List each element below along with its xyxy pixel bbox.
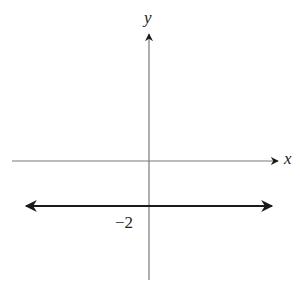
y-axis-label: y bbox=[144, 9, 152, 26]
graph-canvas: y x −2 bbox=[0, 0, 300, 285]
intercept-label: −2 bbox=[115, 214, 133, 231]
coordinate-plane bbox=[0, 0, 300, 285]
x-axis-label: x bbox=[284, 150, 292, 167]
